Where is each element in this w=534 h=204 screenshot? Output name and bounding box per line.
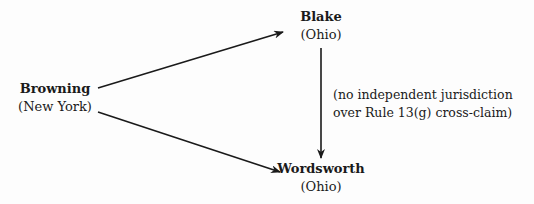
node-wordsworth: Wordsworth (Ohio)	[277, 160, 365, 196]
node-browning-state: (New York)	[18, 98, 92, 116]
jurisdiction-diagram: Browning (New York) Blake (Ohio) Wordswo…	[0, 0, 534, 204]
annotation-line-1: (no independent jurisdiction	[333, 86, 513, 104]
arrow-browning-to-wordsworth	[98, 112, 280, 172]
node-wordsworth-state: (Ohio)	[277, 178, 365, 196]
node-blake: Blake (Ohio)	[300, 8, 342, 44]
node-blake-state: (Ohio)	[300, 26, 342, 44]
node-browning-name: Browning	[18, 80, 92, 98]
annotation-line-2: over Rule 13(g) cross-claim)	[333, 104, 513, 122]
node-browning: Browning (New York)	[18, 80, 92, 116]
arrow-browning-to-blake	[98, 32, 283, 88]
cross-claim-annotation: (no independent jurisdiction over Rule 1…	[333, 86, 513, 122]
node-blake-name: Blake	[300, 8, 342, 26]
node-wordsworth-name: Wordsworth	[277, 160, 365, 178]
